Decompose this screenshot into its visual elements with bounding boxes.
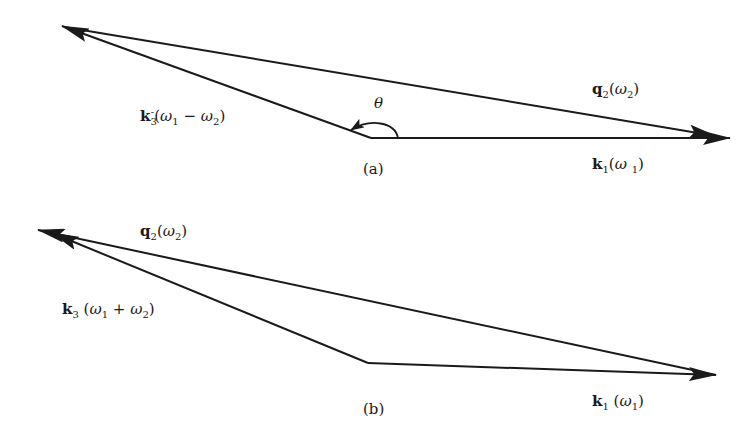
omega: ω [160,107,172,125]
omega: ω [163,222,175,240]
label-k1-a: k1(ω 1) [592,155,644,173]
subscript: 3 [150,116,156,127]
diagram-canvas [0,0,753,442]
symbol-k: k [62,300,72,318]
omega-subscript: 1 [102,309,108,320]
theta-label-a: θ [374,94,383,112]
paren-close: ) [633,80,639,98]
omega: ω [615,155,627,173]
paren-close: ) [638,392,644,410]
omega: ω [615,80,627,98]
paren-close: ) [638,155,644,173]
operator-minus: − [183,107,196,125]
paren-close: ) [219,107,225,125]
subscript: 1 [602,401,608,412]
omega: ω [89,300,101,318]
subscript: 2 [603,89,609,100]
label-q2-b: q2(ω2) [140,222,187,240]
paren-close: ) [149,300,155,318]
symbol-q: q [592,80,603,98]
omega-subscript: 2 [175,231,181,242]
symbol-q: q [140,222,151,240]
caption-a: (a) [363,160,384,178]
label-k3-minus-a: k3-(ω1 − ω2) [140,107,225,125]
symbol-k: k [592,155,602,173]
omega-subscript: 2 [213,116,219,127]
omega-subscript: 2 [627,89,633,100]
label-k1-b: k1 (ω1) [592,392,644,410]
subscript: 3 [72,309,78,320]
omega-subscript: 1 [632,401,638,412]
paren-close: ) [181,222,187,240]
vector-k3-plus-b [52,233,368,363]
omega-subscript: 1 [632,164,638,175]
theta-arc-a [351,123,398,138]
label-q2-a: q2(ω2) [592,80,639,98]
subscript: 2 [151,231,157,242]
omega: ω [201,107,213,125]
operator-plus: + [113,300,126,318]
symbol-k: k [592,392,602,410]
omega-subscript: 2 [142,309,148,320]
omega: ω [619,392,631,410]
label-k3-plus-b: k3 (ω1 + ω2) [62,300,155,318]
omega: ω [130,300,142,318]
subscript: 1 [602,164,608,175]
superscript-minus: - [151,106,154,117]
omega-subscript: 1 [172,116,178,127]
caption-b: (b) [363,400,384,418]
symbol-k: k [140,107,150,125]
